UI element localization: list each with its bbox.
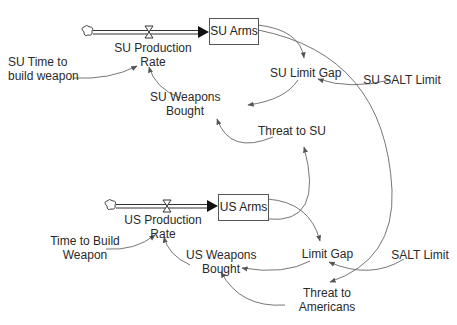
su-flow-arrowhead-icon <box>198 26 209 38</box>
us-weapons-bought-line1: US Weapons <box>186 248 256 262</box>
us-source-cloud-icon <box>105 200 116 210</box>
time-to-build-line2: Weapon <box>50 248 120 262</box>
us-arms-label: US Arms <box>220 200 267 214</box>
threat-to-su[interactable]: Threat to SU <box>252 124 332 138</box>
su-time-to-build-weapon[interactable]: SU Time to build weapon <box>8 55 88 83</box>
su-valve-icon <box>145 26 153 38</box>
su-limit-gap[interactable]: SU Limit Gap <box>270 66 340 80</box>
link-su-gap-to-bought <box>248 80 298 105</box>
us-weapons-bought-line2: Bought <box>186 262 256 276</box>
time-to-build-line1: Time to Build <box>50 234 120 248</box>
su-weapons-bought[interactable]: SU Weapons Bought <box>150 90 220 118</box>
salt-limit[interactable]: SALT Limit <box>385 248 455 262</box>
us-production-rate[interactable]: US Production Rate <box>123 213 203 241</box>
threat-to-americans[interactable]: Threat to Americans <box>292 286 362 314</box>
su-source-cloud-icon <box>82 26 93 36</box>
us-production-rate-line1: US Production <box>123 213 203 227</box>
su-time-to-build-line2: build weapon <box>8 69 88 83</box>
su-production-rate-line2: Rate <box>113 55 193 69</box>
su-arms-label: SU Arms <box>210 24 257 38</box>
su-time-to-build-line1: SU Time to <box>8 55 88 69</box>
su-weapons-bought-line1: SU Weapons <box>150 90 220 104</box>
threat-to-americans-line1: Threat to <box>292 286 362 300</box>
diagram-canvas <box>0 0 457 325</box>
us-weapons-bought[interactable]: US Weapons Bought <box>186 248 256 276</box>
su-arms-stock[interactable]: SU Arms <box>209 18 259 45</box>
us-flow-pipe <box>105 200 218 213</box>
link-us-arms-to-threat-su <box>267 147 310 219</box>
su-production-rate-line1: SU Production <box>113 41 193 55</box>
su-production-rate[interactable]: SU Production Rate <box>113 41 193 69</box>
link-threat-americans-to-bought <box>221 272 285 305</box>
su-salt-limit[interactable]: SU SALT Limit <box>362 73 442 87</box>
limit-gap[interactable]: Limit Gap <box>300 247 355 261</box>
us-arms-stock[interactable]: US Arms <box>218 194 269 221</box>
link-us-arms-to-gap <box>267 199 320 241</box>
su-weapons-bought-line2: Bought <box>150 104 220 118</box>
time-to-build-weapon[interactable]: Time to Build Weapon <box>50 234 120 262</box>
su-flow-pipe <box>82 26 209 39</box>
us-production-rate-line2: Rate <box>123 227 203 241</box>
us-flow-arrowhead-icon <box>207 200 218 212</box>
threat-to-americans-line2: Americans <box>292 300 362 314</box>
us-valve-icon <box>163 200 171 212</box>
